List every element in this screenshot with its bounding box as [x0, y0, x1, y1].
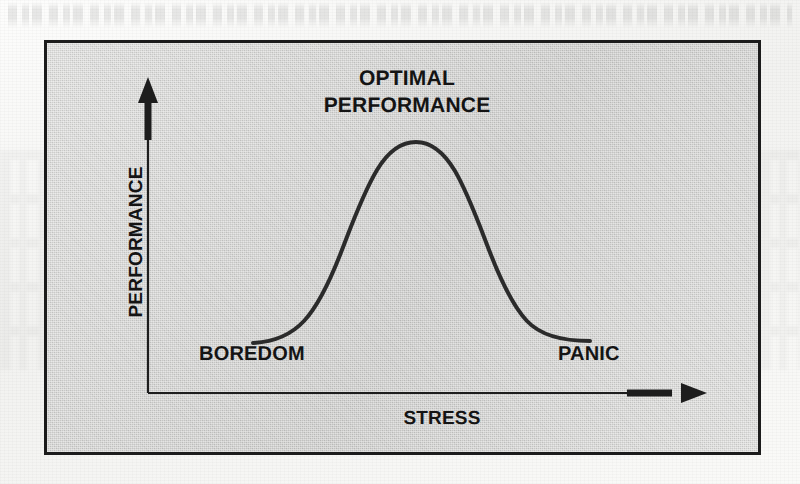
boredom-label: BOREDOM	[199, 343, 305, 366]
y-axis-arrowhead-icon	[138, 77, 158, 103]
performance-curve	[253, 142, 590, 343]
panic-label: PANIC	[558, 343, 620, 366]
page-bleed-through-artifact	[8, 2, 792, 28]
figure-panel: OPTIMAL PERFORMANCE PERFORMANCE STRESS B…	[44, 40, 761, 455]
scanned-page: OPTIMAL PERFORMANCE PERFORMANCE STRESS B…	[0, 0, 800, 484]
x-axis	[148, 383, 707, 403]
annotation-line-1: OPTIMAL	[257, 65, 557, 92]
optimal-performance-annotation: OPTIMAL PERFORMANCE	[257, 65, 557, 119]
x-axis-shaft-thick	[627, 390, 672, 397]
y-axis-title: PERFORMANCE	[126, 142, 148, 342]
annotation-line-2: PERFORMANCE	[257, 92, 557, 119]
x-axis-title: STRESS	[292, 408, 592, 430]
x-axis-arrowhead-icon	[681, 383, 707, 403]
